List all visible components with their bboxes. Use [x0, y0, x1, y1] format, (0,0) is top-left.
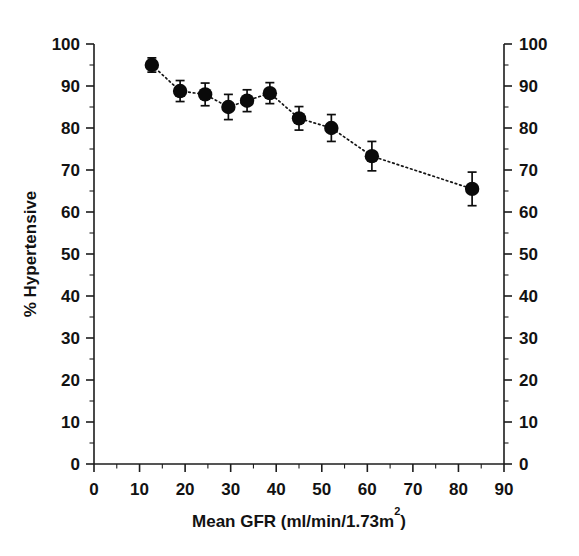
y-axis-left-tick-label: 20: [61, 371, 80, 390]
x-axis-title: Mean GFR (ml/min/1.73m2): [192, 505, 406, 531]
x-axis-tick-label: 60: [358, 480, 377, 499]
data-point-marker[interactable]: [221, 100, 235, 114]
y-axis-left-tick-label: 100: [52, 35, 80, 54]
data-point-marker[interactable]: [145, 58, 159, 72]
y-axis-left-tick-label: 60: [61, 203, 80, 222]
chart-figure: 0102030405060708090010203040506070809010…: [0, 0, 579, 556]
tick-label-layer: 0102030405060708090010203040506070809010…: [52, 35, 548, 499]
y-axis-left-tick-label: 10: [61, 413, 80, 432]
data-point-marker[interactable]: [173, 84, 187, 98]
axis-title-layer: % HypertensiveMean GFR (ml/min/1.73m2): [21, 191, 406, 531]
y-axis-right-tick-label: 50: [519, 245, 538, 264]
x-axis-tick-label: 70: [403, 480, 422, 499]
x-axis-tick-label: 90: [495, 480, 514, 499]
data-point-marker[interactable]: [465, 182, 479, 196]
x-axis-title-tail: ): [400, 512, 406, 531]
x-axis-tick-label: 40: [267, 480, 286, 499]
y-axis-right-tick-label: 10: [519, 413, 538, 432]
data-point-marker[interactable]: [240, 94, 254, 108]
x-axis-tick-label: 50: [312, 480, 331, 499]
y-axis-left-tick-label: 90: [61, 77, 80, 96]
y-axis-left-tick-label: 30: [61, 329, 80, 348]
y-axis-left-tick-label: 50: [61, 245, 80, 264]
y-axis-right-tick-label: 60: [519, 203, 538, 222]
y-axis-left-tick-label: 0: [71, 455, 80, 474]
x-axis-tick-label: 30: [221, 480, 240, 499]
y-axis-right-tick-label: 70: [519, 161, 538, 180]
data-series-layer: [145, 58, 480, 206]
data-point-marker[interactable]: [365, 149, 379, 163]
data-point-marker[interactable]: [292, 111, 306, 125]
data-point-marker[interactable]: [324, 121, 338, 135]
y-axis-right-tick-label: 0: [519, 455, 528, 474]
x-axis-tick-label: 80: [449, 480, 468, 499]
y-axis-right-tick-label: 100: [519, 35, 547, 54]
y-axis-right-tick-label: 30: [519, 329, 538, 348]
y-axis-right-tick-label: 40: [519, 287, 538, 306]
y-axis-title: % Hypertensive: [21, 191, 40, 318]
x-axis-tick-label: 0: [89, 480, 98, 499]
data-point-marker[interactable]: [263, 86, 277, 100]
y-axis-left-tick-label: 80: [61, 119, 80, 138]
x-axis-title-main: Mean GFR (ml/min/1.73m: [192, 512, 394, 531]
y-axis-right-tick-label: 80: [519, 119, 538, 138]
y-axis-left-tick-label: 70: [61, 161, 80, 180]
x-axis-tick-label: 10: [130, 480, 149, 499]
series-connector-line: [152, 65, 472, 189]
y-axis-right-tick-label: 90: [519, 77, 538, 96]
data-point-marker[interactable]: [198, 87, 212, 101]
chart-plot-area: 0102030405060708090010203040506070809010…: [0, 0, 579, 556]
y-axis-right-tick-label: 20: [519, 371, 538, 390]
x-axis-tick-label: 20: [176, 480, 195, 499]
y-axis-left-tick-label: 40: [61, 287, 80, 306]
